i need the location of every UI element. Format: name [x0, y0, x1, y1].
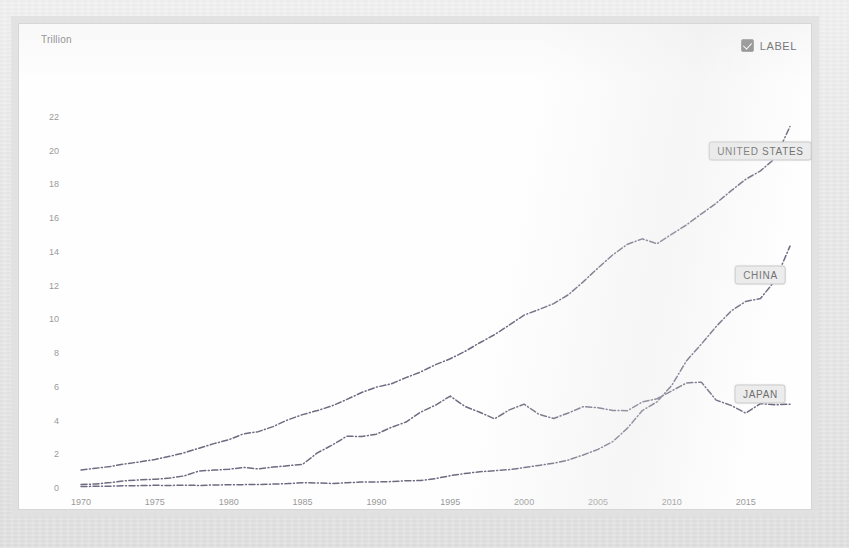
series-callout-china: CHINA	[735, 266, 786, 285]
series-line	[81, 246, 790, 486]
series-callout-united-states: UNITED STATES	[709, 141, 812, 160]
chart-panel: Trillion LABEL 2220181614121086420 19701…	[18, 23, 812, 510]
plot-lines	[19, 24, 813, 511]
series-line	[81, 126, 790, 469]
series-line	[81, 382, 790, 484]
series-callout-japan: JAPAN	[735, 384, 786, 403]
